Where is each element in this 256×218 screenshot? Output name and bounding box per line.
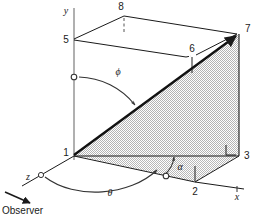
z-axis-point-marker xyxy=(38,172,43,177)
vertex-label-3: 3 xyxy=(244,150,250,161)
phi-origin-marker xyxy=(71,74,77,80)
vertex-label-2: 2 xyxy=(192,186,198,197)
observer-arrow xyxy=(5,192,30,203)
phi-angle-label: ϕ xyxy=(115,66,120,77)
figure-container: 8 5 7 6 1 3 2 y x z ϕ θ α Observer xyxy=(0,0,256,218)
top-face-edge-8-7 xyxy=(124,16,237,34)
top-face-edge-5-6 xyxy=(74,40,186,57)
vertex-label-7: 7 xyxy=(245,23,251,34)
shaded-bottom-face xyxy=(74,155,239,182)
alpha-origin-marker xyxy=(163,173,169,179)
y-axis-label: y xyxy=(63,5,69,16)
observer-label: Observer xyxy=(2,205,44,216)
diagram-svg: 8 5 7 6 1 3 2 y x z ϕ θ α Observer xyxy=(0,0,256,218)
top-face-edge-5-8 xyxy=(74,16,124,39)
theta-angle-label: θ xyxy=(108,187,113,198)
theta-angle-arc xyxy=(45,170,157,192)
x-axis-label: x xyxy=(234,191,240,202)
phi-angle-arc xyxy=(79,77,135,105)
vertex-label-1: 1 xyxy=(63,147,69,158)
vertex-label-5: 5 xyxy=(63,34,69,45)
vertex-label-8: 8 xyxy=(118,1,124,12)
z-axis-label: z xyxy=(25,171,30,182)
alpha-angle-label: α xyxy=(177,161,183,172)
vertex-label-6: 6 xyxy=(189,43,195,54)
top-face-edge-6-dash xyxy=(186,56,191,57)
